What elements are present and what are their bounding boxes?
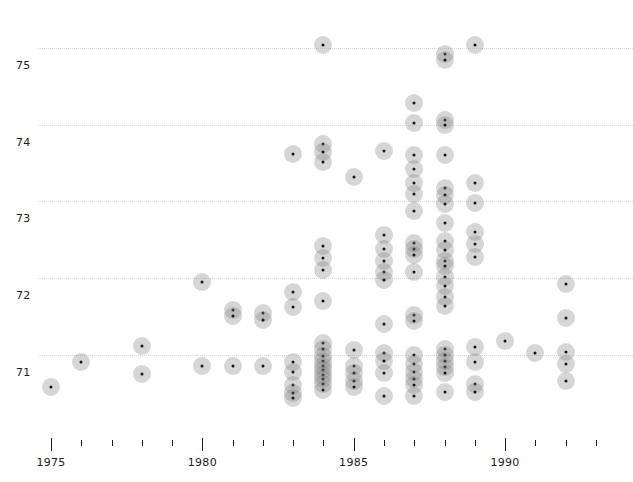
data-point xyxy=(345,364,363,382)
data-point xyxy=(375,344,393,362)
data-point xyxy=(254,304,272,322)
data-point xyxy=(436,364,454,382)
data-point xyxy=(254,357,272,375)
data-point xyxy=(436,195,454,213)
data-point xyxy=(466,223,484,241)
x-axis-minor-tick xyxy=(384,440,385,446)
data-point xyxy=(436,51,454,69)
x-axis-tick-label: 1985 xyxy=(339,456,368,469)
data-point xyxy=(405,387,423,405)
gridline-y-74 xyxy=(38,125,633,126)
data-point xyxy=(375,364,393,382)
data-point xyxy=(284,363,302,381)
x-axis-minor-tick xyxy=(535,440,536,446)
data-point xyxy=(314,334,332,352)
x-axis-minor-tick xyxy=(142,440,143,446)
data-point xyxy=(345,341,363,359)
data-point xyxy=(496,332,514,350)
x-axis-minor-tick xyxy=(475,440,476,446)
data-point xyxy=(133,365,151,383)
data-point xyxy=(436,358,454,376)
data-point xyxy=(375,387,393,405)
data-point xyxy=(436,232,454,250)
data-point xyxy=(436,268,454,286)
data-point xyxy=(405,160,423,178)
data-point xyxy=(254,311,272,329)
data-point xyxy=(557,309,575,327)
y-axis-tick-label: 73 xyxy=(16,212,31,225)
data-point xyxy=(314,237,332,255)
data-point xyxy=(466,383,484,401)
y-axis-tick-label: 71 xyxy=(16,366,31,379)
x-axis-major-tick xyxy=(505,438,506,451)
data-point xyxy=(314,375,332,393)
data-point xyxy=(284,145,302,163)
gridline-y-71 xyxy=(38,355,633,356)
data-point xyxy=(405,312,423,330)
data-point xyxy=(405,370,423,388)
y-axis-tick-label: 75 xyxy=(16,59,31,72)
data-point xyxy=(557,343,575,361)
data-point xyxy=(405,234,423,252)
data-point xyxy=(375,142,393,160)
x-axis-major-tick xyxy=(202,438,203,451)
data-point xyxy=(314,153,332,171)
y-axis-tick-label: 74 xyxy=(16,136,31,149)
data-point xyxy=(405,94,423,112)
data-point xyxy=(224,301,242,319)
data-point xyxy=(42,378,60,396)
data-point xyxy=(314,347,332,365)
x-axis-minor-tick xyxy=(112,440,113,446)
data-point xyxy=(314,36,332,54)
data-point xyxy=(436,241,454,259)
data-point xyxy=(224,357,242,375)
data-point xyxy=(405,306,423,324)
data-point xyxy=(375,315,393,333)
data-point xyxy=(345,372,363,390)
data-point xyxy=(436,277,454,295)
data-point xyxy=(466,235,484,253)
x-axis-tick-label: 1990 xyxy=(490,456,519,469)
data-point xyxy=(375,271,393,289)
data-point xyxy=(375,240,393,258)
data-point xyxy=(284,376,302,394)
data-point xyxy=(405,114,423,132)
data-point xyxy=(345,378,363,396)
x-axis-major-tick xyxy=(51,438,52,451)
data-point xyxy=(466,36,484,54)
data-point xyxy=(72,353,90,371)
data-point xyxy=(314,370,332,388)
data-point xyxy=(314,143,332,161)
data-point xyxy=(466,353,484,371)
x-axis-minor-tick xyxy=(81,440,82,446)
y-axis-tick-label: 72 xyxy=(16,289,31,302)
x-axis-major-tick xyxy=(354,438,355,451)
data-point xyxy=(436,111,454,129)
x-axis-minor-tick xyxy=(172,440,173,446)
data-point xyxy=(405,185,423,203)
data-point xyxy=(436,297,454,315)
data-point xyxy=(284,283,302,301)
data-point xyxy=(436,257,454,275)
x-axis-tick-label: 1975 xyxy=(36,456,65,469)
data-point xyxy=(314,381,332,399)
data-point xyxy=(405,363,423,381)
x-axis-minor-tick xyxy=(414,440,415,446)
data-point xyxy=(314,135,332,153)
data-point xyxy=(405,146,423,164)
data-point xyxy=(466,174,484,192)
x-axis-minor-tick xyxy=(323,440,324,446)
gridline-y-75 xyxy=(38,48,633,49)
gridline-y-72 xyxy=(38,278,633,279)
data-point xyxy=(284,353,302,371)
data-point xyxy=(436,146,454,164)
data-point xyxy=(436,252,454,270)
data-point xyxy=(375,252,393,270)
data-point xyxy=(314,361,332,379)
data-point xyxy=(314,261,332,279)
data-point xyxy=(405,246,423,264)
data-point xyxy=(405,376,423,394)
data-point xyxy=(405,240,423,258)
x-axis-minor-tick xyxy=(445,440,446,446)
data-point xyxy=(466,338,484,356)
